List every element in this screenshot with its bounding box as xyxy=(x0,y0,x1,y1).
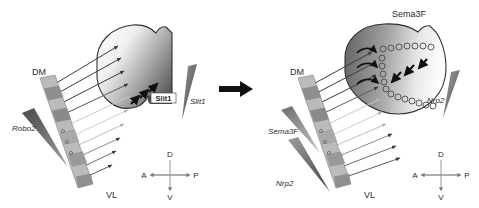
left-robo2-label: Robo2 xyxy=(12,124,36,133)
left-retina-strip xyxy=(40,75,93,188)
left-compass xyxy=(151,160,189,190)
figure-root: Slit1 DM VL Robo2 Slit1 D V A P xyxy=(0,0,479,208)
left-compass-a: A xyxy=(141,171,147,180)
right-compass-v: V xyxy=(438,193,444,202)
right-compass-a: A xyxy=(412,171,418,180)
right-sema3f-top-label: Sema3F xyxy=(392,9,427,19)
left-vl-label: VL xyxy=(106,190,117,200)
right-dm-label: DM xyxy=(290,67,304,77)
right-compass-p: P xyxy=(464,171,469,180)
right-panel: DM VL Sema3F Sema3F Nrp2 Nrp2 D V A P xyxy=(268,9,470,202)
left-compass-v: V xyxy=(167,193,173,202)
right-vl-label: VL xyxy=(364,190,375,200)
right-sema3f-wedge-label: Sema3F xyxy=(268,127,299,136)
left-slit1-inside-text: Slit1 xyxy=(156,94,172,103)
left-compass-p: P xyxy=(193,171,198,180)
left-compass-d: D xyxy=(167,150,173,159)
left-slit1-wedge-label: Slit1 xyxy=(190,97,206,106)
left-dm-label: DM xyxy=(32,67,46,77)
panel-transition-arrow xyxy=(219,81,253,97)
diagram-canvas: Slit1 DM VL Robo2 Slit1 D V A P xyxy=(0,0,479,208)
right-compass xyxy=(422,160,460,190)
left-panel: Slit1 DM VL Robo2 Slit1 D V A P xyxy=(12,25,206,202)
left-slit1-wedge xyxy=(182,64,197,120)
right-nrp2-right-label: Nrp2 xyxy=(427,96,445,105)
left-slit1-box-label: Slit1 xyxy=(151,93,176,103)
right-compass-d: D xyxy=(438,150,444,159)
right-nrp2-left-label: Nrp2 xyxy=(276,179,294,188)
